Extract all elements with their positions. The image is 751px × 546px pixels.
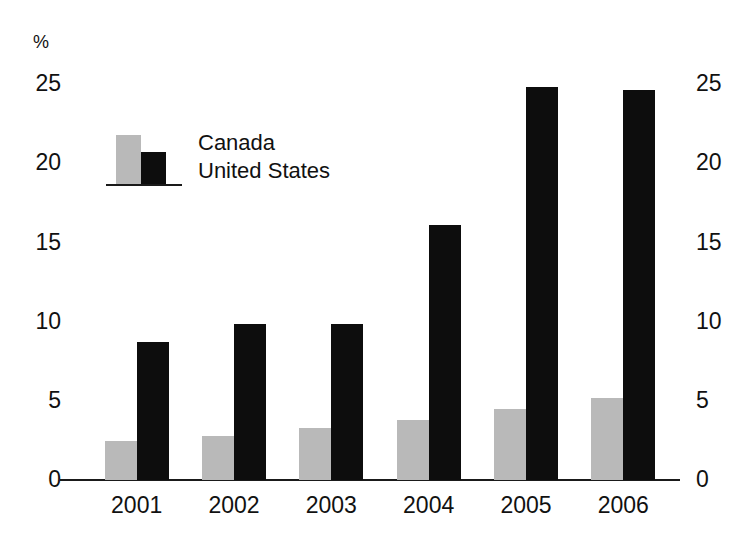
bar-canada-2001 — [105, 441, 137, 480]
y-axis-tick-label-left-10: 10 — [35, 310, 61, 333]
bar-group-2004 — [397, 60, 461, 480]
x-axis-tick-label-2003: 2003 — [281, 494, 381, 517]
bar-canada-2005 — [494, 409, 526, 480]
bar-group-2005 — [494, 60, 558, 480]
legend-label-canada: Canada — [198, 130, 275, 156]
y-axis-tick-label-right-25: 25 — [696, 72, 722, 95]
y-axis-tick-label-right-0: 0 — [696, 468, 709, 491]
y-axis-tick-label-right-15: 15 — [696, 231, 722, 254]
bar-group-2006 — [591, 60, 655, 480]
bar-canada-2006 — [591, 398, 623, 480]
x-axis-tick-label-2004: 2004 — [379, 494, 479, 517]
x-axis-tick-label-2001: 2001 — [87, 494, 187, 517]
bar-canada-2003 — [299, 428, 331, 480]
legend-label-united-states: United States — [198, 158, 330, 184]
x-axis-tick-label-2005: 2005 — [476, 494, 576, 517]
bar-group-2002 — [202, 60, 266, 480]
bar-united-states-2004 — [429, 225, 461, 480]
legend-swatch-group — [112, 128, 192, 192]
bar-united-states-2003 — [331, 324, 363, 480]
bar-canada-2004 — [397, 420, 429, 480]
y-axis-tick-label-left-20: 20 — [35, 151, 61, 174]
y-axis-tick-label-right-10: 10 — [696, 310, 722, 333]
legend-baseline — [106, 184, 182, 186]
y-axis-tick-label-right-20: 20 — [696, 151, 722, 174]
bar-united-states-2005 — [526, 87, 558, 480]
y-axis-tick-label-left-5: 5 — [48, 389, 61, 412]
x-axis-tick-label-2006: 2006 — [573, 494, 673, 517]
bar-united-states-2002 — [234, 324, 266, 480]
legend-swatch-united-states — [141, 152, 166, 184]
bar-group-2003 — [299, 60, 363, 480]
y-axis-tick-label-right-5: 5 — [696, 389, 709, 412]
bar-chart: % 25 20 15 10 5 0 25 20 15 10 5 0 200120… — [0, 0, 751, 546]
plot-area — [84, 60, 668, 480]
y-axis-tick-label-left-25: 25 — [35, 72, 61, 95]
y-axis-tick-label-left-15: 15 — [35, 231, 61, 254]
chart-legend: Canada United States — [112, 128, 412, 200]
bar-united-states-2006 — [623, 90, 655, 480]
bar-canada-2002 — [202, 436, 234, 480]
bar-united-states-2001 — [137, 342, 169, 480]
x-axis-tick-label-2002: 2002 — [184, 494, 284, 517]
bar-group-2001 — [105, 60, 169, 480]
legend-swatch-canada — [116, 135, 141, 184]
y-axis-unit-label: % — [33, 33, 49, 51]
